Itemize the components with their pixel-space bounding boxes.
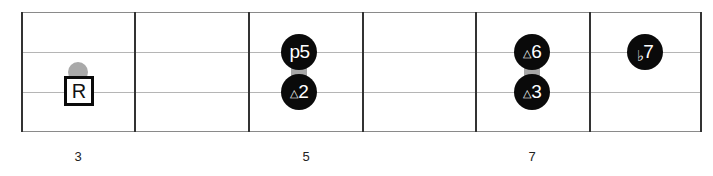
fretboard-diagram: R p5 △2 △6 △3 ♭7 3 5 7 xyxy=(0,0,713,176)
fret-number-3: 3 xyxy=(63,149,93,164)
interval-marker-flat7: ♭7 xyxy=(627,34,663,70)
interval-marker-maj3: △3 xyxy=(514,74,550,110)
fret-number-7: 7 xyxy=(517,149,547,164)
fret-line xyxy=(134,12,136,132)
root-label: R xyxy=(72,80,86,103)
root-note-box: R xyxy=(64,76,94,106)
marker-degree: p5 xyxy=(289,41,309,63)
marker-degree: 2 xyxy=(298,81,308,103)
marker-degree: 7 xyxy=(643,41,653,63)
flat-icon: ♭ xyxy=(637,47,644,65)
fret-line xyxy=(475,12,477,132)
fret-line xyxy=(589,12,591,132)
interval-marker-p5: p5 xyxy=(281,34,317,70)
fret-line xyxy=(362,12,364,132)
triangle-icon: △ xyxy=(523,87,531,100)
triangle-icon: △ xyxy=(290,87,298,100)
fret-number-5: 5 xyxy=(291,149,321,164)
triangle-icon: △ xyxy=(523,47,531,60)
marker-degree: 3 xyxy=(531,81,541,103)
fret-line xyxy=(21,12,23,132)
interval-marker-maj6: △6 xyxy=(514,34,550,70)
fret-line xyxy=(700,12,702,132)
marker-degree: 6 xyxy=(531,41,541,63)
fret-line xyxy=(248,12,250,132)
interval-marker-maj2: △2 xyxy=(281,74,317,110)
